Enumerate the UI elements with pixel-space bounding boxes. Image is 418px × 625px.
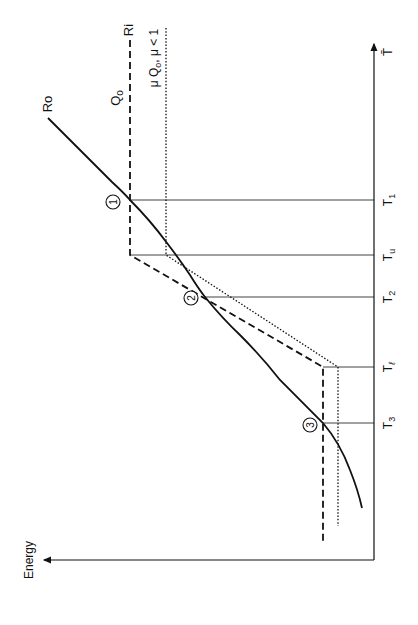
svg-text:3: 3 — [305, 422, 316, 428]
svg-text:Tu: Tu — [381, 249, 397, 261]
ro-label: Ro — [40, 96, 55, 113]
svg-text:Qo: Qo — [108, 90, 125, 106]
svg-text:Ro: Ro — [40, 96, 55, 113]
q0-label: Qo — [108, 90, 125, 106]
ri-label: Ri — [121, 24, 136, 36]
energy-temperature-diagram: T̄ Energy T1 Tu T2 Tℓ T3 Ro Ri Qo μ Qo, … — [0, 0, 418, 625]
svg-text:Tℓ: Tℓ — [381, 362, 397, 372]
svg-text:1: 1 — [108, 199, 119, 205]
svg-text:Energy: Energy — [22, 541, 36, 579]
svg-text:2: 2 — [186, 295, 197, 301]
svg-text:Ri: Ri — [121, 24, 136, 36]
point-2-marker: 2 — [184, 291, 198, 305]
svg-text:T2: T2 — [381, 291, 397, 303]
ri-q0-dashed-line — [130, 40, 323, 541]
ro-curve — [48, 118, 362, 508]
svg-text:T3: T3 — [381, 417, 397, 429]
energy-axis-label: Energy — [22, 541, 36, 579]
tick-label-tu: Tu — [381, 249, 397, 261]
tick-label-t3: T3 — [381, 417, 397, 429]
tick-label-t1: T1 — [381, 194, 397, 206]
point-1-marker: 1 — [106, 195, 120, 209]
svg-text:T̄: T̄ — [380, 48, 395, 56]
temperature-axis-label: T̄ — [380, 48, 395, 56]
tick-label-t2: T2 — [381, 291, 397, 303]
svg-text:μ Qo, μ < 1: μ Qo, μ < 1 — [147, 28, 163, 87]
mu-q0-label: μ Qo, μ < 1 — [147, 28, 163, 87]
point-3-marker: 3 — [303, 418, 317, 432]
tick-label-tl: Tℓ — [381, 362, 397, 372]
svg-text:T1: T1 — [381, 194, 397, 206]
